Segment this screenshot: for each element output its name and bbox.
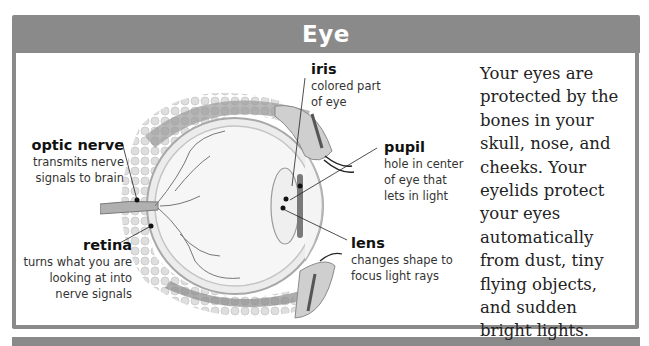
label-optic-nerve-desc-1: transmits nerve <box>10 154 124 170</box>
label-optic-nerve-title: optic nerve <box>10 136 124 154</box>
label-optic-nerve-desc-2: signals to brain <box>10 170 124 186</box>
body-line: and sudden <box>480 296 630 319</box>
body-line: flying objects, <box>480 273 630 296</box>
label-pupil: pupil hole in center of eye that lets in… <box>384 138 463 204</box>
body-line: from dust, tiny <box>480 249 630 272</box>
label-retina-desc-3: nerve signals <box>10 286 132 302</box>
label-retina-title: retina <box>10 236 132 254</box>
body-line: eyelids protect <box>480 179 630 202</box>
label-pupil-desc-3: lets in light <box>384 188 463 204</box>
label-retina-desc-1: turns what you are <box>10 254 132 270</box>
label-lens-desc-1: changes shape to <box>351 252 453 268</box>
label-lens: lens changes shape to focus light rays <box>351 234 453 284</box>
label-iris-title: iris <box>311 60 381 78</box>
body-line: Your eyes are <box>480 62 630 85</box>
body-line: bones in your <box>480 109 630 132</box>
body-line: protected by the <box>480 85 630 108</box>
label-optic-nerve: optic nerve transmits nerve signals to b… <box>10 136 124 186</box>
body-line: your eyes <box>480 202 630 225</box>
frame-right-border <box>635 50 639 328</box>
label-pupil-desc-2: of eye that <box>384 172 463 188</box>
label-lens-title: lens <box>351 234 453 252</box>
label-lens-desc-2: focus light rays <box>351 268 453 284</box>
body-line: cheeks. Your <box>480 156 630 179</box>
label-iris-desc-2: of eye <box>311 94 381 110</box>
page-title: Eye <box>302 21 350 47</box>
label-iris-desc-1: colored part <box>311 78 381 94</box>
label-pupil-desc-1: hole in center <box>384 156 463 172</box>
body-line: skull, nose, and <box>480 132 630 155</box>
label-retina-desc-2: looking at into <box>10 270 132 286</box>
body-line: bright lights. <box>480 319 630 342</box>
header-bar: Eye <box>12 15 640 53</box>
label-iris: iris colored part of eye <box>311 60 381 110</box>
label-pupil-title: pupil <box>384 138 463 156</box>
label-retina: retina turns what you are looking at int… <box>10 236 132 302</box>
body-paragraph: Your eyes are protected by the bones in … <box>480 62 630 343</box>
body-line: automatically <box>480 226 630 249</box>
